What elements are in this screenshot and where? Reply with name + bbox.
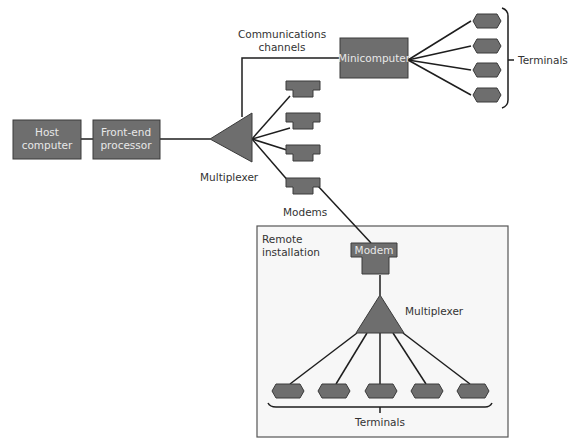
remote-modem-label: Modem	[355, 244, 394, 256]
wire-mini-term-1	[408, 21, 471, 60]
main-multiplexer-label: Multiplexer	[200, 171, 259, 183]
terminal-icon	[318, 384, 350, 398]
fep-label-1: Front-end	[101, 126, 151, 138]
terminal-icon	[272, 384, 304, 398]
host-label-2: computer	[22, 139, 73, 151]
modem-icon	[286, 178, 320, 194]
remote-installation-label-1: Remote	[262, 233, 303, 245]
remote-terminals-label: Terminals	[354, 416, 405, 428]
host-label-1: Host	[35, 126, 59, 138]
terminal-icon	[473, 14, 501, 28]
terminal-icon	[473, 39, 501, 53]
terminal-icon	[473, 88, 501, 102]
modems-label: Modems	[283, 206, 327, 218]
terminal-icon	[365, 384, 397, 398]
mini-terminals-label: Terminals	[517, 54, 568, 66]
wire-mini-term-2	[408, 46, 471, 60]
modem-icon	[286, 145, 320, 161]
comm-channels-label-2: channels	[258, 41, 305, 53]
terminal-icon	[411, 384, 443, 398]
wire-mux-modem-1	[252, 96, 290, 139]
terminal-icon	[457, 384, 489, 398]
modem-icon	[286, 113, 320, 129]
remote-installation-label-2: installation	[262, 246, 320, 258]
modem-icon	[286, 81, 320, 97]
terminal-icon	[473, 63, 501, 77]
terminals-bracket	[502, 8, 508, 108]
main-multiplexer-icon	[210, 113, 252, 162]
minicomputer-label: Minicomputer	[338, 52, 411, 64]
network-diagram: Remote installation Host computer Front-…	[0, 0, 576, 443]
comm-channels-label-1: Communications	[238, 28, 326, 40]
fep-label-2: processor	[100, 139, 152, 151]
remote-multiplexer-label: Multiplexer	[405, 305, 464, 317]
